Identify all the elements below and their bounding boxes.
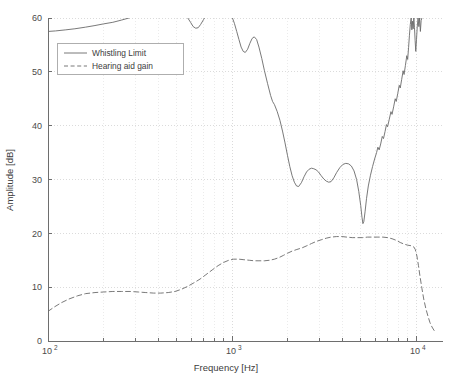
legend-label-1: Whistling Limit	[92, 48, 147, 58]
x-tick-label: 10	[410, 346, 420, 356]
y-tick-label: 30	[32, 175, 42, 185]
y-tick-label: 0	[37, 336, 42, 346]
x-tick-labels: 102103104	[42, 344, 426, 356]
legend[interactable]: Whistling LimitHearing aid gain	[57, 43, 183, 74]
x-tick-label-exponent: 3	[238, 344, 242, 351]
y-tick-label: 20	[32, 229, 42, 239]
y-tick-labels: 0102030405060	[32, 13, 42, 346]
x-tick-label-exponent: 4	[422, 344, 426, 351]
x-axis-title: Frequency [Hz]	[194, 362, 258, 373]
figure-container: 102103104 0102030405060 Whistling LimitH…	[0, 0, 453, 385]
y-axis-title: Amplitude [dB]	[4, 149, 15, 211]
y-tick-label: 50	[32, 67, 42, 77]
legend-label-2: Hearing aid gain	[92, 61, 153, 71]
x-tick-label: 10	[226, 346, 236, 356]
y-tick-label: 60	[32, 13, 42, 23]
y-tick-label: 40	[32, 121, 42, 131]
series-line-1	[48, 2, 422, 224]
y-tick-label: 10	[32, 282, 42, 292]
x-tick-label-exponent: 2	[54, 344, 58, 351]
chart-plot[interactable]: 102103104 0102030405060 Whistling LimitH…	[0, 0, 453, 385]
x-tick-label: 10	[42, 346, 52, 356]
series-line-2	[48, 237, 436, 333]
